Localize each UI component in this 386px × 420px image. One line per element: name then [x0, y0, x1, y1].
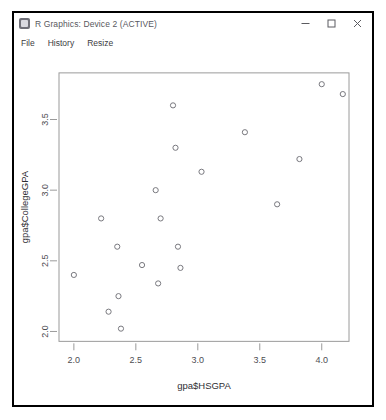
minimize-button[interactable] [292, 14, 318, 34]
y-tick-label: 3.0 [40, 184, 50, 196]
data-point [153, 188, 158, 193]
window-controls [292, 13, 370, 34]
screen: R Graphics: Device 2 (ACTIVE) [0, 0, 386, 420]
data-point [99, 216, 104, 221]
data-point [173, 145, 178, 150]
x-tick-label: 3.0 [192, 355, 205, 365]
data-point [71, 272, 76, 277]
data-point [242, 130, 247, 135]
y-tick-label: 3.5 [40, 113, 50, 125]
data-point [106, 309, 111, 314]
x-tick-label: 4.0 [315, 355, 328, 365]
scatter-plot: 2.02.53.03.54.02.02.53.03.5gpa$HSGPAgpa$… [14, 51, 372, 405]
data-point [319, 82, 324, 87]
menu-item-file[interactable]: File [21, 38, 35, 48]
maximize-button[interactable] [318, 14, 344, 34]
data-point [139, 262, 144, 267]
maximize-icon [326, 18, 337, 29]
y-axis-title: gpa$CollegeGPA [19, 170, 30, 243]
data-point [275, 202, 280, 207]
menubar: File History Resize [14, 34, 372, 51]
window-title: R Graphics: Device 2 (ACTIVE) [35, 19, 292, 29]
r-graphics-icon [19, 18, 30, 29]
x-tick-label: 2.5 [130, 355, 143, 365]
x-tick-label: 3.5 [254, 355, 267, 365]
window-titlebar[interactable]: R Graphics: Device 2 (ACTIVE) [14, 13, 372, 34]
data-point [175, 244, 180, 249]
y-tick-label: 2.5 [40, 255, 50, 267]
close-icon [352, 18, 363, 29]
close-button[interactable] [344, 14, 370, 34]
x-axis-title: gpa$HSGPA [177, 380, 231, 391]
minimize-icon [300, 18, 311, 29]
data-point [116, 294, 121, 299]
data-point [297, 156, 302, 161]
data-point [199, 169, 204, 174]
y-tick-label: 2.0 [40, 325, 50, 337]
data-point [340, 91, 345, 96]
data-point [115, 244, 120, 249]
menu-item-history[interactable]: History [48, 38, 74, 48]
r-graphics-window: R Graphics: Device 2 (ACTIVE) [12, 11, 374, 407]
graphics-device-canvas[interactable]: 2.02.53.03.54.02.02.53.03.5gpa$HSGPAgpa$… [14, 51, 372, 405]
data-point [170, 103, 175, 108]
data-point [156, 281, 161, 286]
plot-frame [59, 73, 349, 341]
data-point [158, 216, 163, 221]
data-point [118, 326, 123, 331]
data-point [178, 265, 183, 270]
x-tick-label: 2.0 [68, 355, 81, 365]
menu-item-resize[interactable]: Resize [87, 38, 113, 48]
